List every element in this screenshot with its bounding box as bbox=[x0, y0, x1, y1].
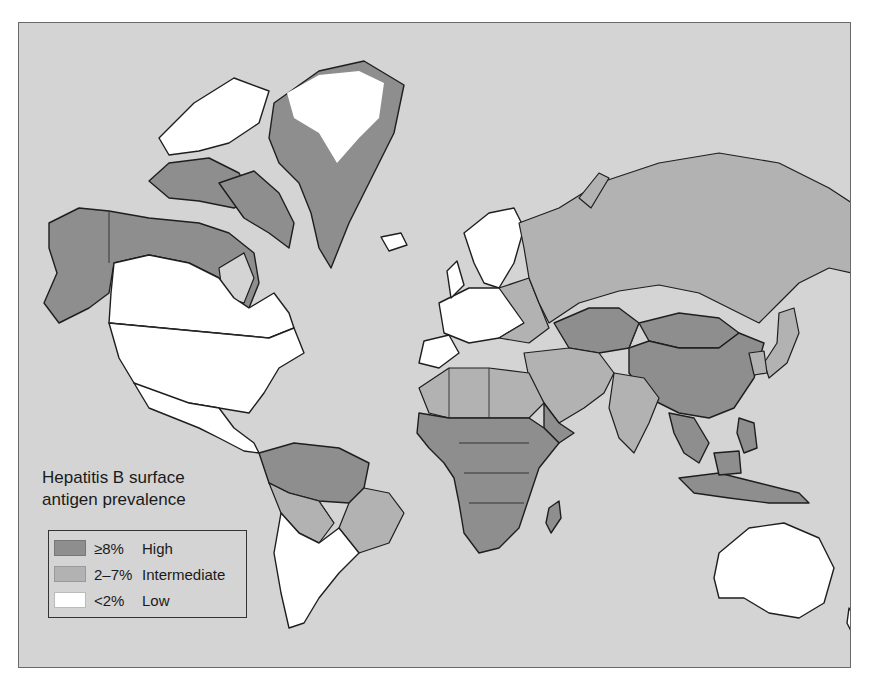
legend-label: Intermediate bbox=[142, 566, 225, 583]
region-sub-saharan-africa bbox=[417, 413, 559, 553]
region-arctic-islands-north bbox=[159, 78, 269, 155]
region-australia bbox=[714, 523, 834, 618]
region-scandinavia bbox=[464, 208, 524, 288]
region-madagascar bbox=[546, 501, 561, 533]
region-iceland bbox=[381, 233, 407, 251]
region-new-zealand bbox=[847, 608, 851, 633]
legend: ≥8% High 2–7% Intermediate <2% Low bbox=[48, 530, 247, 618]
region-southeast-asia bbox=[669, 413, 709, 463]
legend-title-line1: Hepatitis B surface bbox=[42, 467, 186, 489]
legend-title-line2: antigen prevalence bbox=[42, 489, 186, 511]
region-usa bbox=[109, 323, 304, 413]
region-indonesia bbox=[679, 473, 809, 503]
legend-label: Low bbox=[142, 592, 170, 609]
swatch-high bbox=[54, 540, 86, 556]
swatch-intermediate bbox=[54, 566, 86, 582]
legend-item-low: <2% Low bbox=[54, 589, 170, 611]
region-borneo bbox=[714, 451, 741, 475]
region-middle-east bbox=[524, 348, 614, 423]
region-kazakhstan bbox=[554, 308, 639, 353]
legend-title: Hepatitis B surface antigen prevalence bbox=[42, 467, 186, 511]
legend-range: ≥8% bbox=[94, 540, 142, 557]
legend-label: High bbox=[142, 540, 173, 557]
region-philippines bbox=[737, 418, 757, 453]
region-iberia bbox=[419, 335, 459, 368]
region-north-africa bbox=[419, 368, 544, 418]
region-japan bbox=[764, 308, 799, 378]
swatch-low bbox=[54, 592, 86, 608]
legend-range: 2–7% bbox=[94, 566, 142, 583]
legend-range: <2% bbox=[94, 592, 142, 609]
legend-item-high: ≥8% High bbox=[54, 537, 173, 559]
legend-item-intermediate: 2–7% Intermediate bbox=[54, 563, 225, 585]
region-russia bbox=[519, 153, 851, 323]
